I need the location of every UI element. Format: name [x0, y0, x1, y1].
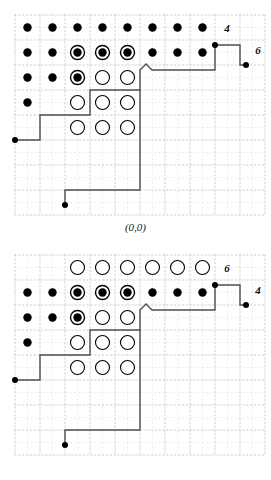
particle-filled	[23, 313, 31, 321]
particle-filled	[23, 338, 31, 346]
path-endpoint	[243, 302, 249, 308]
particle-ringed-inner	[73, 313, 81, 321]
particle-open	[121, 261, 135, 275]
particle-filled	[48, 23, 56, 31]
origin-caption-top: (0,0)	[0, 221, 271, 233]
particle-open	[121, 121, 135, 135]
vertical-axis-label-bottom: 6	[224, 262, 230, 274]
path-endpoint	[212, 282, 218, 288]
particle-filled	[173, 48, 181, 56]
particle-open	[96, 71, 110, 85]
figure-bottom: 6 4 (0,0)	[0, 240, 271, 480]
particle-open	[96, 121, 110, 135]
particle-open	[121, 361, 135, 375]
particle-open	[196, 261, 210, 275]
figure-top-canvas: 4 6	[0, 0, 271, 240]
particle-open	[121, 336, 135, 350]
vertical-axis-label-top: 4	[223, 22, 230, 34]
particle-filled	[123, 23, 131, 31]
particle-filled	[198, 23, 206, 31]
path-endpoint	[243, 62, 249, 68]
horizontal-axis-label-bottom: 4	[254, 284, 261, 296]
particle-open	[71, 96, 85, 110]
particle-filled	[48, 48, 56, 56]
particle-filled	[48, 288, 56, 296]
particle-filled	[198, 288, 206, 296]
particle-filled	[23, 23, 31, 31]
particle-open	[96, 311, 110, 325]
particle-open	[71, 261, 85, 275]
particle-open	[121, 96, 135, 110]
particle-ringed-inner	[123, 288, 131, 296]
particle-open	[121, 311, 135, 325]
particle-ringed-inner	[73, 288, 81, 296]
particle-ringed-inner	[73, 48, 81, 56]
horizontal-axis-label-top: 6	[255, 44, 261, 56]
particle-open	[146, 261, 160, 275]
path-endpoint	[62, 442, 68, 448]
particle-open	[96, 96, 110, 110]
particle-open	[171, 261, 185, 275]
figure-page: 4 6 (0,0) 6 4 (0,0)	[0, 0, 271, 480]
particle-filled	[148, 288, 156, 296]
particle-filled	[198, 48, 206, 56]
particle-filled	[48, 313, 56, 321]
particle-ringed-inner	[98, 288, 106, 296]
particle-filled	[148, 48, 156, 56]
particle-filled	[23, 98, 31, 106]
particle-open	[71, 361, 85, 375]
particle-open	[121, 71, 135, 85]
particle-ringed-inner	[98, 48, 106, 56]
figure-bottom-canvas: 6 4	[0, 240, 271, 480]
path-endpoint	[12, 137, 18, 143]
figure-top: 4 6 (0,0)	[0, 0, 271, 240]
particle-filled	[98, 23, 106, 31]
path-endpoint	[12, 377, 18, 383]
particle-filled	[23, 48, 31, 56]
path-endpoint	[62, 202, 68, 208]
particle-open	[71, 336, 85, 350]
particles-bottom	[23, 261, 209, 375]
particle-filled	[23, 288, 31, 296]
particle-open	[71, 121, 85, 135]
particle-filled	[173, 23, 181, 31]
particle-open	[96, 261, 110, 275]
particle-filled	[23, 73, 31, 81]
particle-ringed-inner	[73, 73, 81, 81]
particle-filled	[73, 23, 81, 31]
path-endpoint	[212, 42, 218, 48]
particle-filled	[173, 288, 181, 296]
particle-open	[96, 361, 110, 375]
particle-filled	[148, 23, 156, 31]
particle-ringed-inner	[123, 48, 131, 56]
particle-open	[96, 336, 110, 350]
particle-filled	[48, 73, 56, 81]
